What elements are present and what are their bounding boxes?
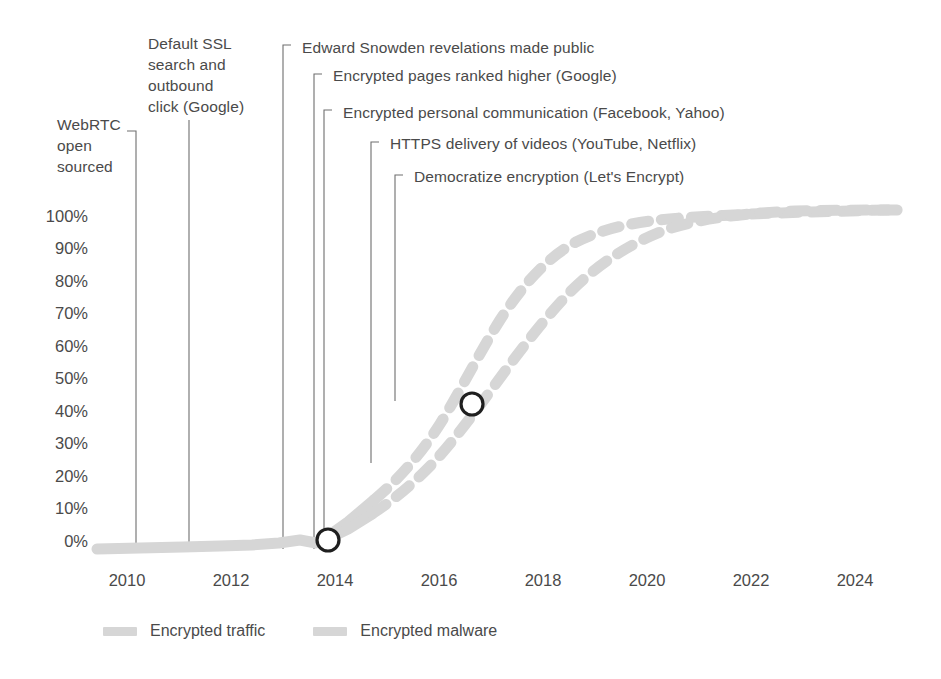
annotation-leader-lines <box>127 45 403 549</box>
legend-label-encrypted-malware: Encrypted malware <box>360 622 497 640</box>
legend-swatch-encrypted-traffic <box>103 627 137 636</box>
leader-line-webrtc <box>127 131 136 549</box>
series-encrypted-traffic-dashed <box>374 210 898 500</box>
series-encrypted-malware-dashed <box>372 210 898 514</box>
series-encrypted-traffic-solid <box>97 537 327 549</box>
leader-line-lets-encrypt <box>395 175 403 401</box>
marker-circle-2017 <box>461 393 483 415</box>
legend-item-encrypted-traffic: Encrypted traffic <box>103 622 265 640</box>
legend-swatch-encrypted-malware <box>313 627 347 636</box>
legend-item-encrypted-malware: Encrypted malware <box>313 622 497 640</box>
leader-line-https-videos <box>371 142 379 463</box>
legend-label-encrypted-traffic: Encrypted traffic <box>150 622 265 640</box>
chart-legend: Encrypted traffic Encrypted malware <box>103 622 497 640</box>
leader-line-ranked-higher <box>314 74 322 549</box>
leader-line-snowden <box>283 45 291 549</box>
leader-line-personal-comm <box>324 110 332 549</box>
marker-circle-2014 <box>317 529 339 551</box>
plot-area <box>0 0 941 679</box>
encryption-adoption-chart: WebRTC open sourced Default SSL search a… <box>0 0 941 679</box>
